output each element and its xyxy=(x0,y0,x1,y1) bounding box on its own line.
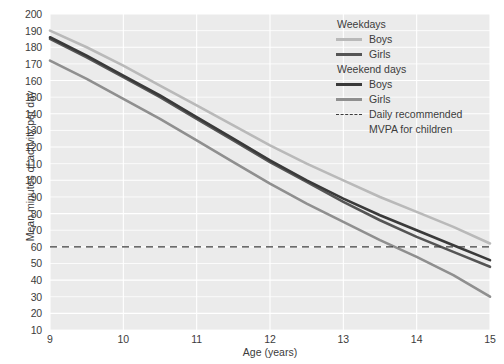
legend-swatch-weekend-girls xyxy=(336,98,362,101)
legend-swatch-weekdays-girls xyxy=(336,53,362,56)
legend-label-weekdays-girls: Girls xyxy=(369,48,391,61)
y-axis-tick-180: 180 xyxy=(8,42,42,52)
legend-item-weekdays-boys[interactable]: Boys xyxy=(336,33,504,46)
y-axis-tick-40: 40 xyxy=(8,275,42,285)
x-axis-tick-10: 10 xyxy=(108,334,138,345)
legend-label-weekend-girls: Girls xyxy=(369,93,391,106)
legend-group-title-weekdays: Weekdays xyxy=(337,18,504,31)
x-axis-tick-11: 11 xyxy=(182,334,212,345)
legend-swatch-weekend-boys xyxy=(336,83,362,86)
legend-item-reference-line[interactable]: Daily recommended xyxy=(336,108,504,121)
legend-label-reference-line: Daily recommended xyxy=(369,108,462,121)
legend-item-weekdays-girls[interactable]: Girls xyxy=(336,48,504,61)
legend-group-title-weekend-days: Weekend days xyxy=(337,63,504,76)
y-axis-label: Mean minutes of activity per day xyxy=(24,56,36,276)
chart-container: 1020304050607080901001101201301401501601… xyxy=(0,0,504,364)
legend-item-weekend-boys[interactable]: Boys xyxy=(336,78,504,91)
x-axis-tick-15: 15 xyxy=(475,334,504,345)
y-axis-tick-30: 30 xyxy=(8,292,42,302)
x-axis-tick-9: 9 xyxy=(35,334,65,345)
legend-swatch-weekdays-boys xyxy=(336,38,362,41)
y-axis-tick-200: 200 xyxy=(8,9,42,19)
x-axis-label: Age (years) xyxy=(50,346,490,358)
chart-legend: Weekdays Boys Girls Weekend days Boys Gi… xyxy=(336,18,504,136)
legend-label-weekend-boys: Boys xyxy=(369,78,392,91)
x-axis-tick-13: 13 xyxy=(328,334,358,345)
legend-label-reference-line-2: MVPA for children xyxy=(369,123,504,136)
legend-swatch-reference-line xyxy=(336,114,362,115)
legend-label-weekdays-boys: Boys xyxy=(369,33,392,46)
y-axis-tick-20: 20 xyxy=(8,308,42,318)
y-axis-tick-190: 190 xyxy=(8,26,42,36)
legend-item-weekend-girls[interactable]: Girls xyxy=(336,93,504,106)
x-axis-tick-12: 12 xyxy=(255,334,285,345)
x-axis-tick-14: 14 xyxy=(402,334,432,345)
